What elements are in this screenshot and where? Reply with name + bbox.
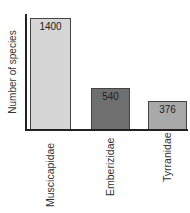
bar-value-label: 540 <box>92 91 129 102</box>
bar-muscicapidae: 1400 <box>30 18 71 129</box>
bar-value-label: 1400 <box>31 21 70 32</box>
x-tick-label: Emberizidae <box>104 138 116 196</box>
bar-value-label: 376 <box>149 104 186 115</box>
x-tick-label: Tyrranidae <box>161 132 173 182</box>
bar-emberizidae: 540 <box>91 88 130 129</box>
x-axis-line <box>25 129 188 131</box>
x-tick-label: Muscicapidae <box>44 143 56 207</box>
y-axis-label: Number of species <box>7 30 18 113</box>
y-axis-line <box>25 14 27 130</box>
bar-tyrranidae: 376 <box>148 101 187 129</box>
bar-chart: Number of species 1400 540 376 Muscicapi… <box>0 0 190 213</box>
